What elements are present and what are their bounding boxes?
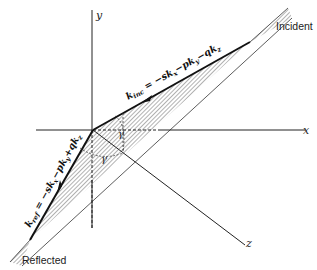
hatch-lower-edge bbox=[22, 18, 292, 266]
x-axis-label: x bbox=[303, 124, 310, 137]
reflected-label: Reflected bbox=[22, 254, 67, 266]
diagram-canvas: y x z Incident Reflected γ γ kinc = −skx… bbox=[0, 0, 317, 270]
z-axis-label: z bbox=[245, 237, 252, 250]
reflection-diagram: y x z Incident Reflected γ γ kinc = −skx… bbox=[0, 0, 317, 270]
z-axis bbox=[93, 130, 245, 245]
gamma-label-2: γ bbox=[101, 153, 107, 164]
gamma-label-1: γ bbox=[118, 128, 124, 139]
y-axis-label: y bbox=[95, 9, 103, 22]
axes bbox=[36, 10, 305, 245]
incident-label: Incident bbox=[276, 20, 313, 32]
hatched-region bbox=[10, 8, 292, 266]
expr-3: −qk bbox=[195, 42, 219, 62]
expr-2: −pk bbox=[173, 54, 197, 74]
